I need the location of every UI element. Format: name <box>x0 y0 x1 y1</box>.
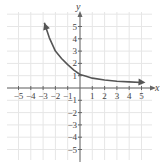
axes <box>7 11 156 162</box>
y-tick-label: −3 <box>67 120 77 130</box>
x-tick-label: 3 <box>115 91 120 101</box>
y-tick-label: 5 <box>73 22 78 32</box>
x-tick-label: 1 <box>90 91 95 101</box>
function-graph: −5−4−3−2−11234554321−1−2−3−4−5 x y <box>0 0 162 162</box>
x-tick-label: −4 <box>26 91 36 101</box>
y-tick-label: −1 <box>67 95 77 105</box>
y-tick-label: 4 <box>73 34 78 44</box>
y-tick-label: −2 <box>67 108 77 118</box>
y-axis-label: y <box>75 1 81 12</box>
x-tick-label: −5 <box>14 91 24 101</box>
x-tick-label: −2 <box>51 91 61 101</box>
y-tick-label: 3 <box>73 46 78 56</box>
x-axis-label: x <box>154 82 160 93</box>
x-tick-label: 4 <box>127 91 132 101</box>
y-tick-label: −5 <box>67 145 77 155</box>
x-tick-label: −3 <box>38 91 48 101</box>
x-tick-label: 2 <box>102 91 107 101</box>
y-tick-label: 2 <box>73 58 78 68</box>
y-tick-label: −4 <box>67 132 77 142</box>
x-tick-label: 5 <box>139 91 144 101</box>
